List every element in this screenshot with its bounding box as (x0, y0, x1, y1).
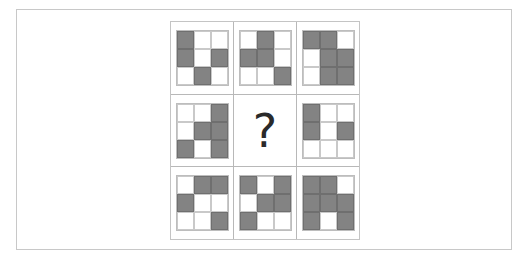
filled-square (257, 31, 274, 49)
empty-square (211, 194, 228, 212)
empty-square (211, 67, 228, 85)
empty-square (194, 31, 211, 49)
empty-square (303, 140, 320, 158)
puzzle-cell (171, 22, 234, 95)
puzzle-cell (234, 22, 297, 95)
puzzle-cell (297, 95, 359, 167)
pattern-3x3 (176, 103, 229, 159)
empty-square (320, 212, 337, 230)
filled-square (337, 212, 354, 230)
empty-square (240, 194, 257, 212)
filled-square (303, 176, 320, 194)
empty-square (320, 122, 337, 140)
filled-square (211, 140, 228, 158)
empty-square (320, 104, 337, 122)
empty-square (274, 49, 291, 67)
empty-square (240, 31, 257, 49)
filled-square (320, 49, 337, 67)
empty-square (337, 104, 354, 122)
filled-square (257, 49, 274, 67)
puzzle-cell (171, 95, 234, 167)
empty-square (274, 31, 291, 49)
empty-square (194, 140, 211, 158)
empty-square (194, 104, 211, 122)
filled-square (303, 122, 320, 140)
filled-square (177, 140, 194, 158)
puzzle-cell (297, 167, 359, 239)
filled-square (211, 104, 228, 122)
puzzle-cell (234, 167, 297, 239)
empty-square (177, 67, 194, 85)
empty-square (177, 122, 194, 140)
empty-square (274, 212, 291, 230)
filled-square (303, 212, 320, 230)
puzzle-cell (171, 167, 234, 239)
empty-square (337, 31, 354, 49)
pattern-3x3 (302, 30, 355, 86)
pattern-3x3 (239, 30, 292, 86)
filled-square (194, 176, 211, 194)
filled-square (274, 67, 291, 85)
filled-square (177, 31, 194, 49)
empty-square (211, 31, 228, 49)
empty-square (257, 212, 274, 230)
empty-square (257, 176, 274, 194)
empty-square (240, 67, 257, 85)
pattern-3x3 (176, 30, 229, 86)
filled-square (257, 194, 274, 212)
filled-square (303, 104, 320, 122)
filled-square (177, 194, 194, 212)
empty-square (177, 104, 194, 122)
filled-square (211, 122, 228, 140)
empty-square (177, 176, 194, 194)
filled-square (274, 176, 291, 194)
filled-square (211, 176, 228, 194)
filled-square (337, 194, 354, 212)
filled-square (320, 176, 337, 194)
empty-square (177, 212, 194, 230)
filled-square (303, 194, 320, 212)
filled-square (320, 194, 337, 212)
filled-square (240, 212, 257, 230)
filled-square (194, 122, 211, 140)
pattern-3x3 (302, 175, 355, 231)
puzzle-cell (297, 22, 359, 95)
filled-square (194, 67, 211, 85)
empty-square (303, 49, 320, 67)
filled-square (320, 31, 337, 49)
empty-square (337, 140, 354, 158)
filled-square (211, 49, 228, 67)
filled-square (303, 31, 320, 49)
empty-square (303, 67, 320, 85)
empty-square (320, 140, 337, 158)
empty-square (337, 176, 354, 194)
empty-square (257, 67, 274, 85)
filled-square (240, 176, 257, 194)
pattern-3x3 (176, 175, 229, 231)
filled-square (337, 67, 354, 85)
question-mark: ? (253, 108, 277, 154)
missing-cell: ? (234, 95, 297, 167)
filled-square (240, 49, 257, 67)
filled-square (177, 49, 194, 67)
empty-square (194, 49, 211, 67)
empty-square (194, 194, 211, 212)
filled-square (337, 122, 354, 140)
matrix-puzzle-grid: ? (170, 21, 360, 240)
empty-square (194, 212, 211, 230)
pattern-3x3 (239, 175, 292, 231)
filled-square (320, 67, 337, 85)
filled-square (274, 194, 291, 212)
filled-square (211, 212, 228, 230)
pattern-3x3 (302, 103, 355, 159)
filled-square (337, 49, 354, 67)
